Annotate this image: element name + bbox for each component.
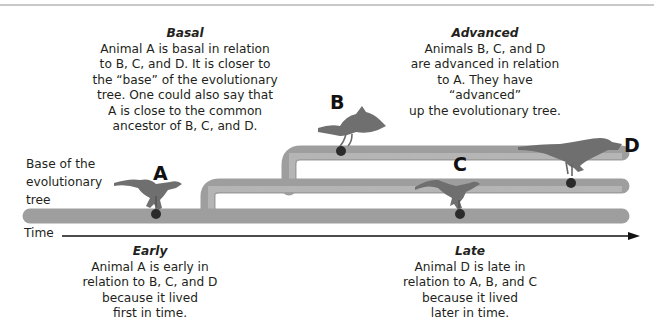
- dinosaur-c-icon: [415, 180, 480, 210]
- node-d: [566, 178, 576, 188]
- late-annotation: Late Animal D is late in relation to A, …: [390, 244, 550, 322]
- late-heading: Late: [390, 244, 550, 260]
- late-line: because it lived: [390, 291, 550, 307]
- node-a: [151, 209, 161, 219]
- label-b: B: [330, 91, 344, 113]
- node-c: [455, 209, 465, 219]
- late-line: later in time.: [390, 306, 550, 322]
- early-heading: Early: [70, 244, 230, 260]
- early-line: relation to B, C, and D: [70, 275, 230, 291]
- late-line: Animal D is late in: [390, 260, 550, 276]
- time-axis-label: Time: [24, 226, 54, 240]
- label-a: A: [153, 162, 168, 184]
- early-line: because it lived: [70, 291, 230, 307]
- label-d: D: [624, 134, 640, 156]
- late-line: relation to A, B, and C: [390, 275, 550, 291]
- dinosaur-a-icon: [114, 179, 182, 210]
- node-b: [336, 146, 346, 156]
- label-c: C: [453, 153, 467, 175]
- dinosaur-b-icon: [318, 106, 386, 136]
- early-line: first in time.: [70, 306, 230, 322]
- time-arrowhead-icon: [628, 232, 640, 240]
- early-line: Animal A is early in: [70, 260, 230, 276]
- early-annotation: Early Animal A is early in relation to B…: [70, 244, 230, 322]
